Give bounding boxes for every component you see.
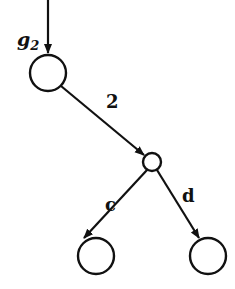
edge-root-mid-label: 2: [106, 91, 119, 112]
mid-node: [143, 153, 161, 171]
edge-mid-left-label: c: [105, 194, 116, 215]
edge-mid-right-label: d: [182, 185, 195, 206]
right-leaf-node: [190, 238, 226, 274]
root-node: [30, 55, 66, 91]
edge-root-mid: [61, 86, 144, 155]
tree-diagram: g2 2 c d: [0, 0, 235, 289]
incoming-edge-label: g2: [17, 28, 39, 53]
left-leaf-node: [78, 238, 114, 274]
